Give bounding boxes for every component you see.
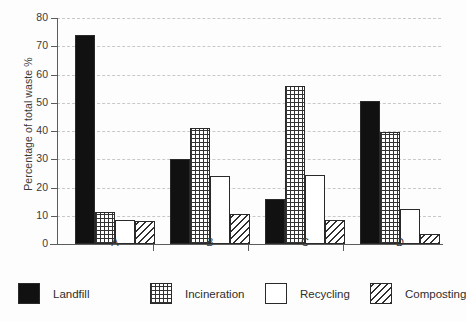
x-group-label-b: B bbox=[190, 236, 230, 248]
legend-swatch-icon bbox=[150, 283, 172, 304]
y-tick-label: 10 bbox=[36, 209, 48, 221]
y-axis-title: Percentage of total waste % bbox=[22, 24, 34, 224]
bar-b-composting bbox=[230, 214, 250, 244]
legend-item-composting[interactable]: Composting bbox=[370, 283, 466, 304]
legend-label: Landfill bbox=[53, 288, 89, 300]
legend-item-landfill[interactable]: Landfill bbox=[18, 283, 89, 304]
y-tick-label: 20 bbox=[36, 181, 48, 193]
y-tick-label: 0 bbox=[42, 237, 48, 249]
chart-legend: LandfillIncinerationRecyclingComposting bbox=[0, 283, 455, 315]
bar-b-recycling bbox=[210, 176, 230, 244]
plot-area: 01020304050607080 bbox=[57, 18, 443, 244]
x-tick-mark bbox=[153, 244, 154, 251]
legend-swatch-icon bbox=[18, 283, 40, 304]
legend-label: Composting bbox=[405, 288, 466, 300]
gridline bbox=[57, 18, 441, 19]
legend-swatch-icon bbox=[265, 283, 287, 304]
gridline bbox=[57, 46, 441, 47]
x-group-label-a: A bbox=[95, 236, 135, 248]
bar-d-incineration bbox=[380, 132, 400, 244]
y-tick-label: 40 bbox=[36, 124, 48, 136]
bar-a-landfill bbox=[75, 35, 95, 244]
legend-label: Recycling bbox=[300, 288, 350, 300]
y-tick-label: 80 bbox=[36, 11, 48, 23]
bar-d-composting bbox=[420, 234, 440, 244]
bar-c-recycling bbox=[305, 175, 325, 244]
gridline bbox=[57, 75, 441, 76]
legend-label: Incineration bbox=[185, 288, 244, 300]
x-tick-mark bbox=[248, 244, 249, 251]
y-tick-label: 60 bbox=[36, 68, 48, 80]
bar-c-composting bbox=[325, 220, 345, 244]
legend-item-incineration[interactable]: Incineration bbox=[150, 283, 244, 304]
bar-a-composting bbox=[135, 221, 155, 244]
bar-c-incineration bbox=[285, 86, 305, 244]
bar-b-incineration bbox=[190, 128, 210, 244]
y-axis-line bbox=[57, 18, 58, 244]
y-tick-label: 30 bbox=[36, 152, 48, 164]
gridline bbox=[57, 103, 441, 104]
y-tick-label: 50 bbox=[36, 96, 48, 108]
legend-swatch-icon bbox=[370, 283, 392, 304]
bar-c-landfill bbox=[265, 199, 285, 244]
x-group-label-d: D bbox=[380, 236, 420, 248]
x-tick-mark bbox=[343, 244, 344, 251]
bar-b-landfill bbox=[170, 159, 190, 244]
x-group-label-c: C bbox=[285, 236, 325, 248]
bar-d-landfill bbox=[360, 101, 380, 244]
legend-item-recycling[interactable]: Recycling bbox=[265, 283, 350, 304]
y-tick-label: 70 bbox=[36, 39, 48, 51]
